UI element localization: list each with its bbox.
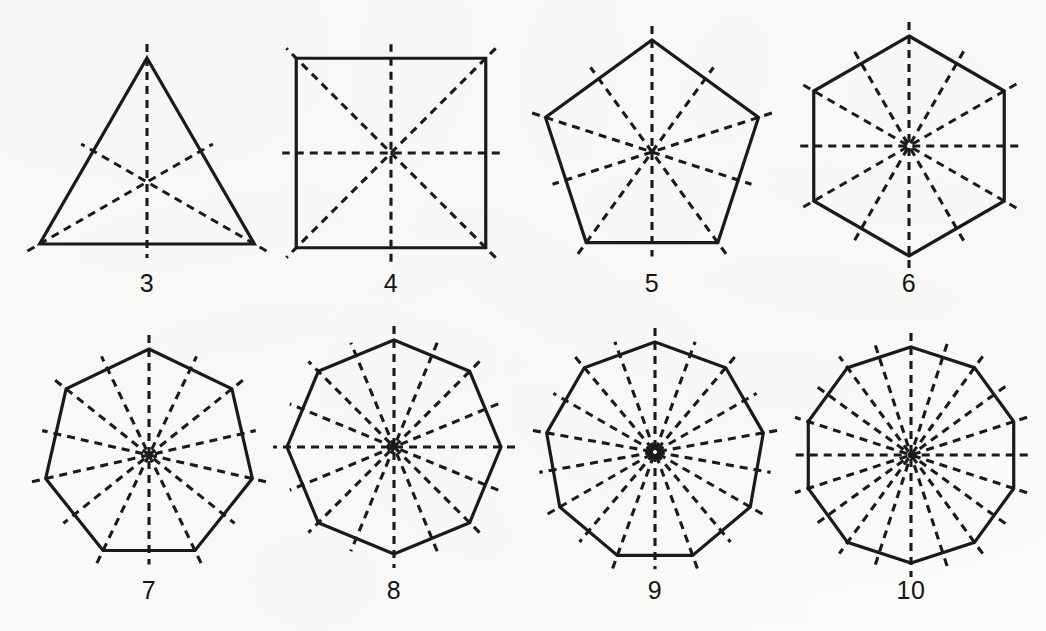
symmetry-axis — [63, 380, 242, 523]
symmetry-axis — [97, 356, 197, 563]
polygon-figures-canvas — [0, 0, 1046, 631]
figure-label-10: 10 — [897, 578, 926, 603]
polygon-figure-10 — [794, 333, 1027, 577]
polygon-figure-5 — [532, 26, 772, 257]
symmetry-lines-8 — [273, 326, 515, 568]
symmetry-lines-5 — [532, 26, 772, 257]
figure-label-9: 9 — [648, 578, 662, 603]
polygon-figure-4 — [282, 44, 500, 262]
polygon-figure-9 — [533, 328, 777, 569]
figure-label-5: 5 — [645, 271, 659, 296]
symmetry-axis — [27, 144, 212, 251]
symmetry-axis — [55, 380, 234, 523]
symmetry-lines-6 — [800, 22, 1019, 270]
polygon-figure-3 — [27, 44, 266, 258]
symmetry-axis — [578, 67, 714, 254]
symmetry-axis — [81, 144, 266, 251]
symmetry-axis — [42, 431, 266, 482]
polygon-figure-8 — [273, 326, 515, 568]
figure-label-4: 4 — [384, 271, 398, 296]
symmetry-lines-3 — [27, 44, 266, 258]
figure-label-3: 3 — [140, 271, 154, 296]
polygon-figure-6 — [800, 22, 1019, 270]
figure-label-6: 6 — [902, 271, 916, 296]
symmetry-lines-9 — [533, 328, 777, 569]
figure-label-7: 7 — [142, 578, 156, 603]
symmetry-axis — [591, 67, 727, 254]
symmetry-lines-7 — [32, 335, 266, 565]
symmetry-lines-4 — [282, 44, 500, 262]
figure-label-8: 8 — [387, 578, 401, 603]
symmetry-axis — [32, 431, 256, 482]
symmetry-lines-10 — [794, 333, 1027, 577]
figure-page: 345678910 — [0, 0, 1046, 631]
polygon-figure-7 — [32, 335, 266, 565]
symmetry-axis — [101, 356, 201, 563]
